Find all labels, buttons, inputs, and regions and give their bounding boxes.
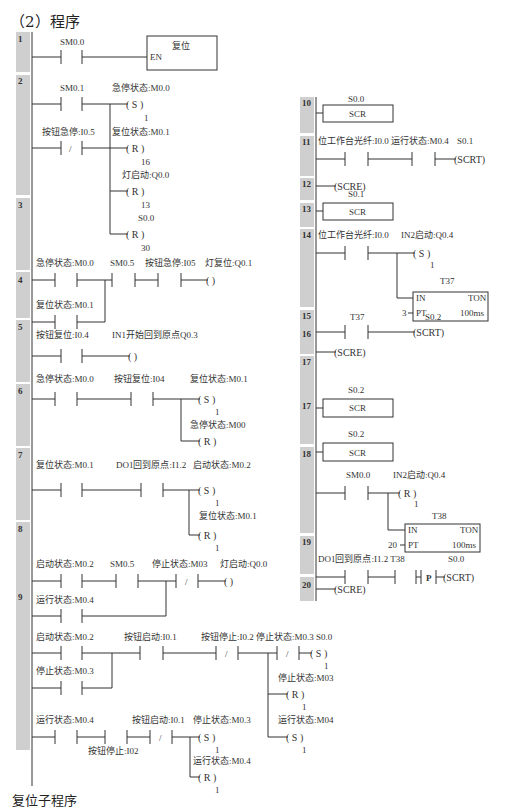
svg-text:19: 19	[302, 537, 312, 547]
svg-text:按钮启动:I0.1: 按钮启动:I0.1	[124, 631, 177, 642]
svg-text:30: 30	[141, 243, 151, 253]
svg-text:按钮复位:I0.4: 按钮复位:I0.4	[36, 329, 89, 340]
svg-text:( S ): ( S )	[413, 248, 430, 260]
svg-text:8: 8	[18, 524, 23, 534]
svg-text:IN: IN	[408, 525, 418, 535]
svg-text:(SCRT): (SCRT)	[413, 327, 444, 339]
svg-text:1: 1	[324, 661, 329, 671]
svg-text:按钮启动:I0.1: 按钮启动:I0.1	[132, 714, 185, 725]
svg-text:(SCRE): (SCRE)	[334, 347, 366, 359]
svg-text:1: 1	[215, 785, 220, 795]
network-14: 位工作台光纤:I0.0 IN2启动:Q0.4 ( S ) 1 T37 IN TO…	[316, 229, 488, 321]
svg-text:运行状态:M0.4: 运行状态:M0.4	[193, 755, 251, 766]
svg-text:18: 18	[302, 449, 312, 459]
svg-text:( R ): ( R )	[126, 143, 144, 155]
svg-text:灯启动:Q0.0: 灯启动:Q0.0	[122, 169, 170, 180]
svg-text:/: /	[286, 649, 289, 659]
svg-text:TON: TON	[468, 293, 487, 303]
svg-text:1: 1	[302, 745, 307, 755]
svg-text:7: 7	[18, 450, 23, 460]
svg-text:启动状态:M0.2: 启动状态:M0.2	[36, 631, 94, 642]
svg-text:停止状态:M03: 停止状态:M03	[278, 672, 334, 683]
svg-text:运行状态:M0.4: 运行状态:M0.4	[36, 594, 94, 605]
svg-text:1: 1	[430, 260, 435, 270]
network-15: T37 S0.2 (SCRT)	[316, 312, 444, 339]
network-9: 运行状态:M0.4 按钮停止:I02 按钮启动:I0.1 / 停止状态:M0.3…	[32, 714, 251, 795]
svg-text:( R ): ( R )	[286, 689, 304, 701]
svg-text:16: 16	[141, 157, 151, 167]
svg-text:1: 1	[302, 702, 307, 712]
network-6: 复位状态:M0.1 DO1回到原点:I1.2 启动状态:M0.2 ( S ) 1…	[32, 459, 257, 553]
svg-text:( R ): ( R )	[198, 436, 216, 448]
svg-text:SCR: SCR	[349, 403, 366, 413]
svg-text:/: /	[225, 649, 228, 659]
svg-text:按钮急停:I0.5: 按钮急停:I0.5	[42, 126, 95, 137]
svg-text:100ms: 100ms	[460, 308, 485, 318]
svg-text:/: /	[69, 144, 72, 154]
svg-text:停止状态:M0.3: 停止状态:M0.3	[36, 665, 94, 676]
svg-text:( S ): ( S )	[198, 485, 215, 497]
svg-text:按钮停止:I02: 按钮停止:I02	[88, 745, 139, 756]
svg-text:复位状态:M0.1: 复位状态:M0.1	[36, 299, 94, 310]
svg-text:按钮复位:I04: 按钮复位:I04	[114, 373, 165, 384]
svg-text:/: /	[159, 733, 162, 743]
svg-text:1: 1	[215, 498, 220, 508]
svg-text:17: 17	[302, 357, 312, 367]
svg-text:S0.1: S0.1	[348, 189, 364, 199]
svg-text:IN2启动:Q0.4: IN2启动:Q0.4	[393, 469, 446, 480]
network-17a: S0.2 SCR	[316, 385, 393, 417]
svg-text:( ): ( )	[128, 351, 137, 363]
right-rail	[300, 97, 316, 601]
svg-text:S0.2: S0.2	[348, 385, 364, 395]
svg-text:运行状态:M04: 运行状态:M04	[278, 714, 334, 725]
svg-text:T37: T37	[350, 312, 365, 322]
network-18: SM0.0 IN2启动:Q0.4 ( R ) 1 T38 IN TON 20 P…	[316, 469, 480, 552]
svg-text:复位状态:M0.1: 复位状态:M0.1	[112, 126, 170, 137]
svg-text:( S ): ( S )	[126, 99, 143, 111]
svg-text:/: /	[185, 577, 188, 587]
network-5: 急停状态:M0.0 按钮复位:I04 复位状态:M0.1 ( S ) 1 急停状…	[32, 373, 248, 448]
svg-text:2: 2	[18, 76, 23, 86]
svg-text:启动状态:M0.2: 启动状态:M0.2	[193, 459, 251, 470]
svg-text:1: 1	[215, 407, 220, 417]
svg-text:急停状态:M0.0: 急停状态:M0.0	[36, 373, 94, 384]
svg-text:按钮停止:I0.2 停止状态:M0.3 S0.0: 按钮停止:I0.2 停止状态:M0.3 S0.0	[201, 631, 333, 642]
network-20: (SCRE)	[316, 584, 366, 596]
svg-text:灯启动:Q0.0: 灯启动:Q0.0	[220, 558, 268, 569]
network-4: 按钮复位:I0.4 IN1开始回到原点Q0.3 ( )	[32, 329, 198, 363]
svg-text:(SCRT): (SCRT)	[454, 154, 485, 166]
svg-text:6: 6	[18, 386, 23, 396]
svg-text:按钮急停:I05: 按钮急停:I05	[145, 257, 196, 268]
svg-text:运行状态:M0.4: 运行状态:M0.4	[36, 714, 94, 725]
svg-text:( R ): ( R )	[126, 229, 144, 241]
svg-text:P: P	[426, 573, 432, 583]
svg-text:S0.0: S0.0	[348, 94, 365, 104]
svg-text:DO1回到原点:I1.2: DO1回到原点:I1.2	[116, 459, 186, 470]
svg-text:1: 1	[144, 113, 149, 123]
svg-text:复位状态:M0.1: 复位状态:M0.1	[190, 373, 248, 384]
svg-text:( S ): ( S )	[310, 648, 327, 660]
svg-text:T37: T37	[440, 276, 455, 286]
svg-text:100ms: 100ms	[452, 540, 477, 550]
subroutine-caption: 复位子程序	[12, 790, 77, 809]
network-3: 急停状态:M0.0 复位状态:M0.1 SM0.5 按钮急停:I05 灯复位:Q…	[32, 257, 252, 329]
svg-text:S0.1: S0.1	[457, 136, 473, 146]
svg-text:( R ): ( R )	[126, 186, 144, 198]
svg-text:SM0.1: SM0.1	[60, 83, 84, 93]
svg-text:9: 9	[18, 592, 23, 602]
svg-text:EN: EN	[150, 52, 162, 62]
svg-text:( S ): ( S )	[198, 394, 215, 406]
svg-text:SCR: SCR	[349, 207, 366, 217]
svg-text:TON: TON	[460, 525, 479, 535]
svg-text:S0.0: S0.0	[448, 554, 465, 564]
svg-text:12: 12	[302, 179, 312, 189]
svg-text:1: 1	[414, 499, 419, 509]
svg-text:DO1回到原点:I1.2 T38: DO1回到原点:I1.2 T38	[318, 553, 405, 564]
svg-text:( S ): ( S )	[286, 732, 303, 744]
svg-text:S0.2: S0.2	[348, 429, 364, 439]
svg-text:SCR: SCR	[349, 109, 366, 119]
svg-text:位工作台光纤:I0.0: 位工作台光纤:I0.0	[318, 229, 389, 240]
svg-text:SM0.0: SM0.0	[346, 470, 371, 480]
